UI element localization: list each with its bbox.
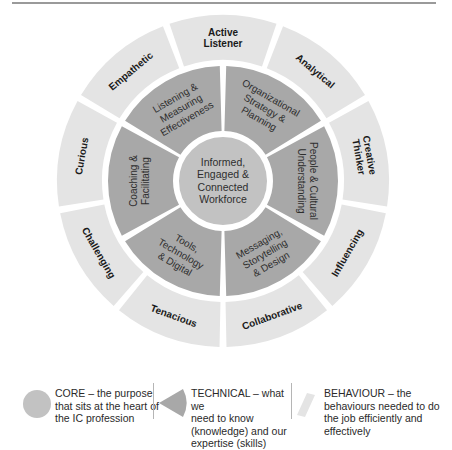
- legend-core: CORE – the purpose that sits at the hear…: [22, 383, 152, 435]
- ic-competency-wheel: ActiveListenerAnalyticalCreativeThinkerI…: [0, 0, 452, 380]
- legend-behaviour-line: the job efficiently and: [324, 412, 449, 425]
- behaviour-swatch-icon: [295, 389, 317, 419]
- technical-label: Coaching &Facilitating: [128, 155, 151, 207]
- legend: CORE – the purpose that sits at the hear…: [0, 383, 452, 441]
- legend-technical-text: TECHNICAL – what we need to know (knowle…: [191, 387, 296, 450]
- behaviour-segment: Curious: [57, 101, 117, 206]
- core-circle: Informed,Engaged &ConnectedWorkforce: [178, 136, 268, 226]
- legend-behaviour-line: effectively: [324, 425, 449, 438]
- technical-swatch-icon: [157, 387, 187, 421]
- behaviour-segment: CreativeThinker: [329, 101, 389, 206]
- legend-core-line: that sits at the heart of: [55, 400, 165, 413]
- legend-behaviour-text: BEHAVIOUR – the behaviours needed to do …: [324, 387, 449, 437]
- legend-technical: TECHNICAL – what we need to know (knowle…: [157, 383, 292, 435]
- legend-divider: [153, 383, 154, 419]
- legend-technical-line: need to know: [191, 412, 296, 425]
- legend-divider: [291, 383, 292, 419]
- legend-behaviour: BEHAVIOUR – the behaviours needed to do …: [295, 383, 445, 435]
- technical-label: People & CulturalUnderstanding: [296, 142, 319, 220]
- behaviour-segment: ActiveListener: [170, 15, 277, 66]
- legend-technical-line: TECHNICAL – what we: [191, 387, 296, 412]
- legend-technical-line: expertise (skills): [191, 437, 296, 450]
- legend-behaviour-line: BEHAVIOUR – the: [324, 387, 449, 400]
- legend-technical-line: (knowledge) and our: [191, 425, 296, 438]
- legend-behaviour-line: behaviours needed to do: [324, 400, 449, 413]
- legend-core-line: the IC profession: [55, 412, 165, 425]
- core-label: Informed,Engaged &ConnectedWorkforce: [197, 156, 249, 206]
- core-swatch-icon: [22, 389, 52, 419]
- behaviour-label: ActiveListener: [204, 27, 243, 49]
- legend-core-line: CORE – the purpose: [55, 387, 165, 400]
- legend-core-text: CORE – the purpose that sits at the hear…: [55, 387, 165, 425]
